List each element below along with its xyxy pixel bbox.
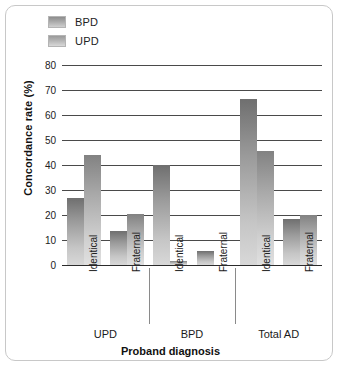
group-separator: [149, 268, 150, 324]
legend-label-upd: UPD: [75, 35, 99, 47]
x-axis-line: [62, 265, 322, 266]
y-tick-label: 80: [45, 60, 56, 71]
y-tick-label: 70: [45, 85, 56, 96]
gridline: 70: [62, 90, 322, 91]
legend-swatch-upd-icon: [48, 35, 66, 47]
category-label-identical-4: Identical: [261, 235, 272, 272]
bar-bpd-fraternal-5: [283, 219, 300, 265]
y-axis-title: Concordance rate (%): [22, 58, 34, 218]
bar-bpd-identical-0: [67, 198, 84, 266]
bar-bpd-identical-4: [240, 99, 257, 265]
y-tick-label: 30: [45, 185, 56, 196]
y-tick-label: 40: [45, 160, 56, 171]
bar-bpd-fraternal-1: [110, 231, 127, 265]
gridline: 40: [62, 165, 322, 166]
category-label-identical-0: Identical: [88, 235, 99, 272]
y-tick-label: 60: [45, 110, 56, 121]
legend-item-bpd: BPD: [48, 13, 168, 30]
bar-bpd-fraternal-3: [197, 251, 214, 265]
category-label-fraternal-5: Fraternal: [304, 232, 315, 272]
figure: BPD UPD Concordance rate (%) Proband dia…: [0, 0, 341, 369]
group-label-upd: UPD: [94, 328, 117, 340]
legend-swatch-bpd-icon: [48, 16, 66, 28]
y-tick-label: 20: [45, 210, 56, 221]
y-tick-label: 10: [45, 235, 56, 246]
legend: BPD UPD: [48, 13, 168, 51]
gridline: 50: [62, 140, 322, 141]
legend-label-bpd: BPD: [75, 16, 98, 28]
group-label-bpd: BPD: [181, 328, 204, 340]
group-separator: [235, 268, 236, 324]
category-label-identical-2: Identical: [174, 235, 185, 272]
gridline: 60: [62, 115, 322, 116]
y-tick-label: 0: [50, 260, 56, 271]
category-label-fraternal-3: Fraternal: [218, 232, 229, 272]
gridline: 20: [62, 215, 322, 216]
x-axis-title: Proband diagnosis: [0, 345, 341, 357]
legend-item-upd: UPD: [48, 32, 168, 49]
group-label-total-ad: Total AD: [258, 328, 299, 340]
gridline: 30: [62, 190, 322, 191]
y-tick-label: 50: [45, 135, 56, 146]
bar-bpd-identical-2: [153, 165, 170, 265]
plot-area: 01020304050607080: [62, 65, 322, 265]
category-label-fraternal-1: Fraternal: [131, 232, 142, 272]
gridline: 80: [62, 65, 322, 66]
